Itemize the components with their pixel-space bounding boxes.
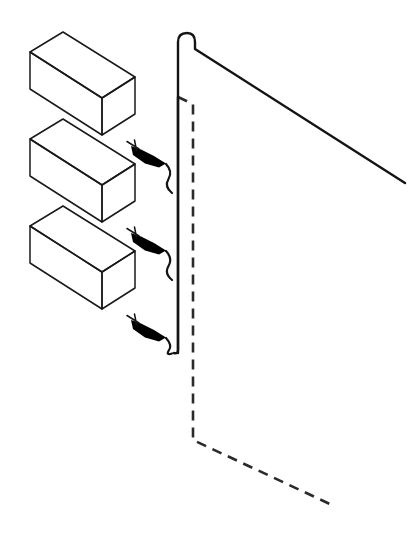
weld-lower	[127, 314, 172, 354]
panel-near-edge-group	[174, 97, 178, 353]
bar-upper-fill	[30, 32, 135, 135]
technical-illustration-figure: Isometric assembly drawing Three rectang…	[0, 0, 419, 537]
weld-middle-tail	[166, 251, 172, 280]
panel-hidden-edge-dashed	[178, 97, 332, 505]
bar-lower	[30, 206, 135, 309]
upright-panel-group	[178, 33, 405, 505]
bar-upper	[30, 32, 135, 135]
panel-near-vertical-edge	[174, 97, 178, 353]
panel-top-edge	[178, 33, 405, 353]
bar-middle	[30, 119, 135, 222]
bar-middle-fill	[30, 119, 135, 222]
bar-lower-fill	[30, 206, 135, 309]
weld-lower-tail	[166, 338, 172, 354]
weld-upper-tail	[166, 164, 172, 193]
figure-canvas	[0, 0, 419, 537]
